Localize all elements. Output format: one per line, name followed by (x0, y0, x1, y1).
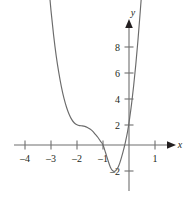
function-curve (44, 0, 148, 171)
x-tick-label-1: 1 (153, 153, 158, 164)
y-tick-labels: 8 6 4 2 –2 (109, 42, 120, 178)
y-tick-label-2: 2 (115, 120, 120, 131)
axes-group (14, 19, 176, 191)
x-tick-label--3: –3 (45, 153, 56, 164)
y-tick-label-6: 6 (115, 68, 120, 79)
x-tick-labels: –4 –3 –2 –1 1 (19, 153, 158, 164)
y-tick-label-8: 8 (115, 42, 120, 53)
graph-figure: –4 –3 –2 –1 1 8 6 4 2 –2 x y (0, 0, 189, 199)
x-tick-label--2: –2 (71, 153, 82, 164)
x-tick-label--4: –4 (19, 153, 30, 164)
x-axis-arrow-icon (167, 141, 176, 149)
y-axis-label: y (130, 7, 136, 18)
x-axis-label: x (177, 139, 183, 150)
y-axis-arrow-icon (125, 19, 133, 28)
y-tick-label-4: 4 (115, 94, 120, 105)
coordinate-plane-svg: –4 –3 –2 –1 1 8 6 4 2 –2 x y (0, 0, 189, 199)
